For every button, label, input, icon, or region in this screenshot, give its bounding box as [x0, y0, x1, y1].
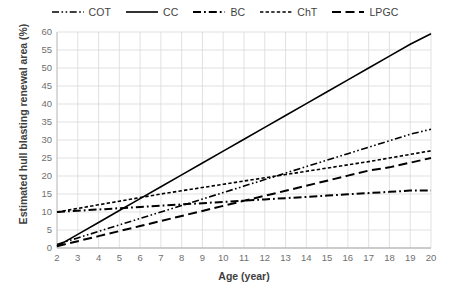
x-tick-label: 18: [380, 252, 398, 263]
x-tick-label: 2: [48, 252, 66, 263]
x-tick-label: 3: [69, 252, 87, 263]
x-tick-label: 14: [297, 252, 315, 263]
x-tick-label: 20: [422, 252, 440, 263]
plot-area: Estimated hull blasting renewal area (%)…: [0, 0, 449, 293]
y-tick-label: 5: [30, 224, 52, 235]
y-tick-label: 50: [30, 62, 52, 73]
y-tick-label: 45: [30, 80, 52, 91]
plot-svg: [0, 0, 449, 293]
x-tick-label: 15: [318, 252, 336, 263]
y-axis-title: Estimated hull blasting renewal area (%): [17, 9, 29, 239]
y-tick-label: 30: [30, 134, 52, 145]
x-tick-label: 12: [256, 252, 274, 263]
x-tick-label: 9: [193, 252, 211, 263]
y-tick-label: 40: [30, 98, 52, 109]
chart-container: COTCCBCChTLPGC Estimated hull blasting r…: [0, 0, 449, 293]
x-tick-label: 8: [173, 252, 191, 263]
y-tick-label: 60: [30, 26, 52, 37]
x-tick-label: 16: [339, 252, 357, 263]
x-tick-label: 4: [90, 252, 108, 263]
x-axis-title: Age (year): [57, 270, 431, 282]
y-tick-label: 25: [30, 152, 52, 163]
x-tick-label: 13: [277, 252, 295, 263]
y-tick-label: 0: [30, 242, 52, 253]
x-tick-label: 19: [401, 252, 419, 263]
y-tick-label: 15: [30, 188, 52, 199]
x-tick-label: 17: [360, 252, 378, 263]
y-tick-label: 20: [30, 170, 52, 181]
y-tick-label: 55: [30, 44, 52, 55]
y-tick-label: 10: [30, 206, 52, 217]
x-tick-label: 5: [110, 252, 128, 263]
x-tick-label: 11: [235, 252, 253, 263]
x-tick-label: 10: [214, 252, 232, 263]
y-tick-label: 35: [30, 116, 52, 127]
x-tick-label: 7: [152, 252, 170, 263]
x-tick-label: 6: [131, 252, 149, 263]
